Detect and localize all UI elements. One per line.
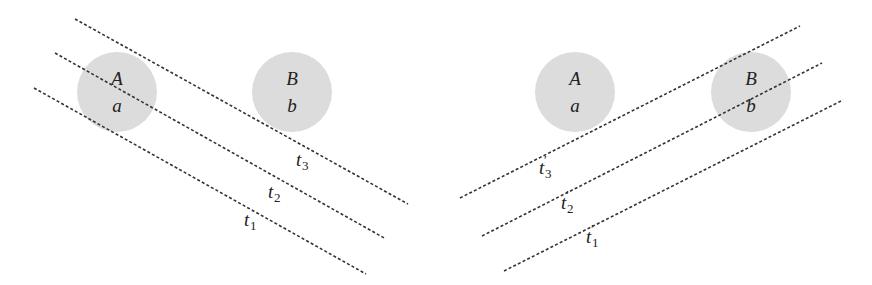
circle-shape <box>77 52 157 132</box>
circle-shape <box>711 52 791 132</box>
circle-upper-label: B <box>286 68 298 89</box>
circle-shape <box>535 52 615 132</box>
line-label-subscript: 2 <box>567 201 574 216</box>
line-label-t1-prime: t ′ 1 <box>586 221 599 250</box>
circle-lower-label: a <box>570 95 580 116</box>
circle-shape <box>252 52 332 132</box>
line-label-t3: t 3 <box>296 149 309 173</box>
circle-A-right: A a <box>535 52 615 132</box>
circle-A-left: A a <box>77 52 157 132</box>
line-label-subscript: 1 <box>592 235 599 250</box>
left-panel: A a B b t 3 t 2 t 1 <box>34 19 408 274</box>
line-label-subscript: 2 <box>274 190 281 205</box>
line-label-t3-prime: t ′ 3 <box>539 152 552 181</box>
line-label-t1: t 1 <box>244 209 257 233</box>
line-label-t2-prime: t ′ 2 <box>561 187 574 216</box>
line-label-t2: t 2 <box>268 181 281 205</box>
diagram-canvas: A a B b t 3 t 2 t 1 A a <box>0 0 872 285</box>
circle-lower-label: b <box>287 95 297 116</box>
line-label-subscript: 1 <box>250 218 257 233</box>
line-label-subscript: 3 <box>302 158 309 173</box>
line-label-prime: ′ <box>544 152 547 167</box>
line-label-prime: ′ <box>591 221 594 236</box>
circle-upper-label: B <box>745 68 757 89</box>
line-label-subscript: 3 <box>545 166 552 181</box>
dashed-line-t2-prime <box>482 63 822 236</box>
right-panel: A a B b t ′ 3 t ′ 2 t ′ 1 <box>460 26 843 271</box>
circle-upper-label: A <box>567 68 581 89</box>
circle-upper-label: A <box>109 68 123 89</box>
line-label-prime: ′ <box>566 187 569 202</box>
circle-B-left: B b <box>252 52 332 132</box>
circle-B-right: B b <box>711 52 791 132</box>
circle-lower-label: b <box>746 95 756 116</box>
circle-lower-label: a <box>112 95 122 116</box>
